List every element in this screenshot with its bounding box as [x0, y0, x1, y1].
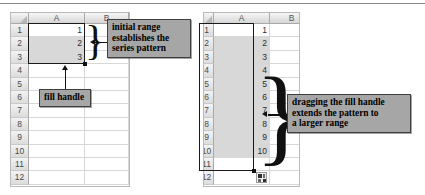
table-row: 10 [11, 145, 129, 158]
cell-b5[interactable] [85, 78, 129, 91]
cell-b7[interactable] [85, 104, 129, 117]
table-row: 9 [11, 131, 129, 144]
cell-a3[interactable]: 3 [29, 51, 85, 64]
row-header[interactable]: 12 [203, 171, 214, 184]
row-header[interactable]: 3 [203, 51, 214, 64]
cell-a4[interactable]: 4 [214, 64, 270, 77]
table-row: 4 [11, 64, 129, 77]
column-header-a[interactable]: A [29, 13, 85, 24]
table-row: 2 2 [204, 37, 299, 50]
cell-a9[interactable] [29, 131, 85, 144]
cell-b1[interactable] [270, 24, 300, 37]
cell-a12[interactable] [29, 171, 85, 184]
row-header[interactable]: 8 [203, 118, 214, 131]
cell-b4[interactable] [270, 64, 300, 77]
column-header-row: A B [204, 13, 299, 24]
cell-a7[interactable]: 7 [214, 104, 270, 117]
row-header[interactable]: 2 [203, 37, 214, 50]
cell-a11[interactable] [29, 158, 85, 171]
callout-line: a larger range [292, 118, 406, 129]
callout-line: establishes the [112, 33, 186, 44]
cell-b12[interactable] [270, 171, 300, 184]
autofill-glyph-part [263, 174, 265, 178]
table-row: 11 [11, 158, 129, 171]
cell-a2[interactable]: 2 [29, 37, 85, 50]
cell-a9[interactable]: 9 [214, 131, 270, 144]
row-header[interactable]: 4 [203, 64, 214, 77]
cell-a11[interactable] [214, 158, 270, 171]
cell-a10[interactable] [29, 145, 85, 158]
cell-a3[interactable]: 3 [214, 51, 270, 64]
column-header-b[interactable]: B [270, 13, 300, 24]
cell-a5[interactable]: 5 [214, 78, 270, 91]
column-header-a[interactable]: A [214, 13, 270, 24]
row-header[interactable]: 12 [11, 171, 29, 184]
row-header[interactable]: 5 [203, 78, 214, 91]
row-header[interactable]: 7 [11, 104, 29, 117]
cell-a1[interactable]: 1 [214, 24, 270, 37]
cell-a10[interactable]: 10 [214, 145, 270, 158]
row-header[interactable]: 11 [11, 158, 29, 171]
row-header[interactable]: 6 [11, 91, 29, 104]
select-all-corner-icon[interactable] [11, 13, 29, 24]
callout-line: initial range [112, 22, 186, 33]
table-row: 8 [11, 118, 129, 131]
table-row: 12 [204, 171, 299, 184]
table-row: 12 [11, 171, 129, 184]
cell-a4[interactable] [29, 64, 85, 77]
row-header[interactable]: 5 [11, 78, 29, 91]
row-header[interactable]: 10 [203, 145, 214, 158]
autofill-glyph-part [258, 179, 261, 182]
row-header[interactable]: 9 [203, 131, 214, 144]
cell-a1[interactable]: 1 [29, 24, 85, 37]
cell-b6[interactable] [85, 91, 129, 104]
figure-top-rule [0, 3, 425, 4]
table-row: 11 [204, 158, 299, 171]
cell-b2[interactable] [270, 37, 300, 50]
row-header[interactable]: 11 [203, 158, 214, 171]
cell-a8[interactable] [29, 118, 85, 131]
row-header[interactable]: 3 [11, 51, 29, 64]
select-all-corner-icon[interactable] [203, 13, 214, 24]
row-header[interactable]: 10 [11, 145, 29, 158]
row-header[interactable]: 9 [11, 131, 29, 144]
dragging-fill-handle-callout: dragging the fill handle extends the pat… [287, 94, 411, 133]
cell-b4[interactable] [85, 64, 129, 77]
table-row: 1 1 [204, 24, 299, 37]
autofill-glyph-part [263, 179, 267, 183]
extended-series-spreadsheet[interactable]: A B 1 1 2 2 3 3 4 4 5 5 6 6 7 7 8 8 [203, 12, 300, 187]
cell-b12[interactable] [85, 171, 129, 184]
cell-b11[interactable] [270, 158, 300, 171]
autofill-glyph-part [258, 174, 262, 178]
table-row: 10 10 [204, 145, 299, 158]
cell-b5[interactable] [270, 78, 300, 91]
table-row: 5 5 [204, 78, 299, 91]
table-row: 7 7 [204, 104, 299, 117]
row-header[interactable]: 1 [203, 24, 214, 37]
cell-b9[interactable] [85, 131, 129, 144]
cell-b8[interactable] [85, 118, 129, 131]
cell-a8[interactable]: 8 [214, 118, 270, 131]
table-row: 6 6 [204, 91, 299, 104]
callout-line: dragging the fill handle [292, 97, 406, 108]
table-row: 4 4 [204, 64, 299, 77]
row-header[interactable]: 6 [203, 91, 214, 104]
cell-b9[interactable] [270, 131, 300, 144]
cell-b3[interactable] [270, 51, 300, 64]
table-row: 3 3 [204, 51, 299, 64]
row-header[interactable]: 8 [11, 118, 29, 131]
row-header[interactable]: 4 [11, 64, 29, 77]
cell-a6[interactable]: 6 [214, 91, 270, 104]
callout-line: extends the pattern to [292, 108, 406, 119]
cell-b10[interactable] [270, 145, 300, 158]
cell-a2[interactable]: 2 [214, 37, 270, 50]
row-header[interactable]: 2 [11, 37, 29, 50]
fill-handle-callout: fill handle [39, 89, 91, 107]
row-header[interactable]: 1 [11, 24, 29, 37]
cell-b10[interactable] [85, 145, 129, 158]
callout-line: fill handle [44, 92, 86, 103]
cell-b11[interactable] [85, 158, 129, 171]
autofill-options-button[interactable] [256, 172, 267, 183]
row-header[interactable]: 7 [203, 104, 214, 117]
initial-range-callout: initial range establishes the series pat… [107, 19, 191, 58]
